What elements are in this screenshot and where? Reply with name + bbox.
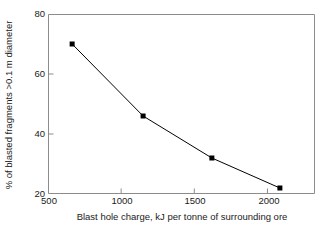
x-tick-label-500: 500 [27, 196, 71, 206]
chart-figure: % of blasted fragments >0.1 m diameter 8… [0, 0, 328, 237]
x-axis-title: Blast hole charge, kJ per tonne of surro… [48, 211, 316, 222]
axis-ticks [49, 74, 268, 194]
data-line [72, 44, 280, 188]
y-tick-label-80: 80 [5, 9, 45, 19]
y-tick-label-40: 40 [5, 129, 45, 139]
y-axis-title: % of blasted fragments >0.1 m diameter [1, 5, 17, 205]
data-point [277, 186, 282, 191]
y-tick-label-60: 60 [5, 69, 45, 79]
x-tick-label-2000: 2000 [247, 196, 291, 206]
x-tick-label-1500: 1500 [173, 196, 217, 206]
data-point [141, 114, 146, 119]
chart-plot-svg [48, 14, 315, 194]
data-point [70, 42, 75, 47]
x-tick-label-1000: 1000 [100, 196, 144, 206]
data-point [209, 156, 214, 161]
data-markers [70, 42, 283, 191]
plot-area [48, 14, 315, 194]
axis-frame [49, 15, 315, 194]
